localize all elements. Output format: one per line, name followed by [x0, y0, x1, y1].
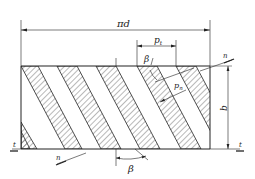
angle-leader [151, 58, 153, 65]
section-t-left-label: t [13, 141, 16, 149]
section-t-right-label: t [239, 141, 242, 149]
arrowhead [227, 144, 230, 149]
helix-angle-bottom-label: β [127, 163, 134, 174]
tooth-band-corner [21, 122, 37, 149]
section-n-bottom-label: n [56, 154, 61, 162]
helix-angle-bottom-arc [116, 156, 146, 159]
arrowhead [116, 157, 120, 160]
tooth-bands [0, 66, 240, 149]
arrowhead [204, 29, 210, 32]
normal-pitch-label: pn [174, 81, 183, 91]
arrowhead [137, 45, 142, 48]
section-n-top-label: n [223, 52, 228, 60]
arrowhead [142, 156, 147, 159]
transverse-pitch-label: pt [154, 35, 163, 46]
arrowhead [227, 66, 230, 71]
arrowhead [171, 45, 176, 48]
gear-development-diagram: πd pt β pn n n b t t β [0, 0, 255, 179]
circumference-label: πd [116, 18, 130, 29]
helix-angle-top-label: β [143, 54, 149, 64]
face-width-label: b [219, 105, 229, 111]
arrowhead [21, 29, 27, 32]
